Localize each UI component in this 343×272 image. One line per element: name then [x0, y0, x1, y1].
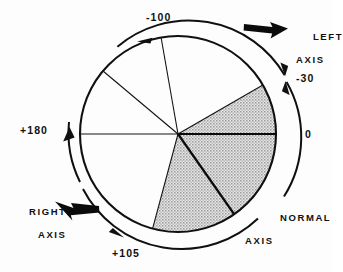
label-angle-plus-180: +180	[20, 124, 48, 137]
radial-line-minus-100	[161, 37, 178, 134]
left-axis-callout-arrow	[244, 22, 288, 38]
outer-arc-right	[284, 82, 301, 197]
arc-arrowhead-plus105	[109, 228, 124, 238]
arc-arrowhead-minus30-down	[282, 81, 290, 95]
radial-line-upper-left	[103, 71, 178, 134]
right-axis-line1: RIGHT	[29, 206, 67, 217]
label-normal-axis: NORMAL AXIS	[263, 200, 331, 269]
normal-axis-line1: NORMAL	[280, 212, 331, 223]
left-axis-line2: AXIS	[296, 54, 343, 66]
right-axis-line2: AXIS	[12, 229, 67, 241]
arc-arrowhead-plus180	[63, 127, 74, 142]
normal-axis-line2: AXIS	[245, 235, 331, 247]
label-angle-zero: 0	[305, 128, 312, 141]
label-angle-plus-105: +105	[112, 247, 140, 260]
label-left-axis: LEFT AXIS	[296, 19, 343, 88]
left-axis-line1: LEFT	[313, 31, 343, 42]
label-angle-minus-100: -100	[146, 11, 171, 24]
label-right-axis: RIGHT AXIS	[12, 194, 67, 263]
